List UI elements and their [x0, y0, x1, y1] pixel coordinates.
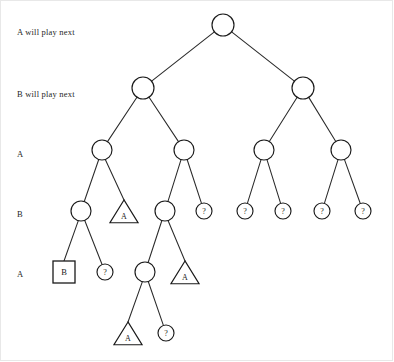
tree-edge	[168, 221, 185, 261]
circle-node-shape	[135, 262, 155, 282]
circle-node-shape	[254, 140, 274, 160]
tree-node-circle[interactable]	[292, 77, 314, 99]
node-label: A	[121, 212, 127, 221]
tree-edge	[344, 159, 360, 203]
circle-node-shape	[71, 201, 91, 221]
circle-node-shape	[212, 14, 234, 36]
tree-edge	[148, 221, 162, 263]
tree-node-circle-question[interactable]: ?	[275, 203, 291, 219]
tree-node-square-B[interactable]: B	[53, 261, 75, 283]
game-tree-figure: A will play nextB will play nextABA A???…	[0, 0, 394, 362]
circle-node-shape	[174, 140, 194, 160]
tree-edge	[309, 97, 336, 141]
tree-edge	[148, 281, 163, 325]
tree-edges	[64, 32, 360, 326]
node-label: ?	[320, 207, 324, 216]
tree-node-circle[interactable]	[71, 201, 91, 221]
tree-edge	[84, 159, 98, 201]
tree-node-circle[interactable]	[212, 14, 234, 36]
node-label: ?	[361, 207, 365, 216]
tree-node-circle-question[interactable]: ?	[158, 325, 174, 341]
node-label: ?	[103, 268, 107, 277]
tree-edge	[232, 32, 295, 81]
tree-node-triangle-A[interactable]: A	[110, 200, 138, 223]
tree-edge	[152, 32, 215, 81]
tree-node-circle-question[interactable]: ?	[355, 203, 371, 219]
tree-node-triangle-A[interactable]: A	[171, 261, 199, 284]
tree-edge	[85, 220, 102, 264]
tree-node-circle-question[interactable]: ?	[314, 203, 330, 219]
tree-edge	[168, 160, 181, 202]
tree-node-circle-question[interactable]: ?	[196, 203, 212, 219]
circle-node-shape	[292, 77, 314, 99]
tree-node-circle[interactable]	[254, 140, 274, 160]
tree-node-circle[interactable]	[331, 140, 351, 160]
circle-node-shape	[331, 140, 351, 160]
circle-node-shape	[155, 201, 175, 221]
tree-edge	[105, 159, 124, 200]
tree-edge	[324, 160, 338, 204]
tree-edge	[128, 282, 142, 322]
tree-node-circle[interactable]	[155, 201, 175, 221]
tree-node-triangle-A[interactable]: A	[114, 322, 142, 345]
tree-nodes: A?????B?AA?	[53, 14, 371, 345]
tree-edge	[108, 97, 137, 141]
game-tree-graph: A?????B?AA?	[0, 0, 394, 362]
tree-node-circle[interactable]	[135, 262, 155, 282]
node-label: A	[125, 334, 131, 343]
tree-edge	[187, 160, 201, 204]
tree-node-circle[interactable]	[92, 140, 112, 160]
tree-node-circle[interactable]	[132, 77, 154, 99]
node-label: A	[182, 273, 188, 282]
circle-node-shape	[92, 140, 112, 160]
node-label: ?	[281, 207, 285, 216]
tree-edge	[149, 97, 178, 141]
tree-edge	[64, 221, 78, 261]
tree-node-circle[interactable]	[174, 140, 194, 160]
circle-node-shape	[132, 77, 154, 99]
node-label: ?	[202, 207, 206, 216]
node-label: B	[61, 267, 67, 277]
tree-edge	[267, 160, 281, 204]
tree-node-circle-question[interactable]: ?	[97, 264, 113, 280]
tree-edge	[269, 97, 297, 141]
node-label: ?	[243, 207, 247, 216]
tree-edge	[247, 160, 261, 204]
tree-node-circle-question[interactable]: ?	[237, 203, 253, 219]
node-label: ?	[164, 329, 168, 338]
